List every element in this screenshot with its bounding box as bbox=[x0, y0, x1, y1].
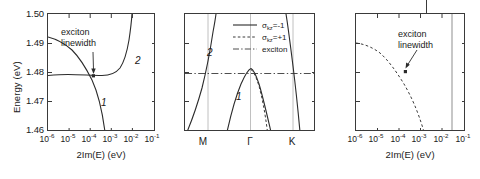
legend-entry-sigma-plus1: σkz=+1 bbox=[232, 31, 287, 43]
right-panel-curve-sigma-plus1 bbox=[356, 43, 424, 131]
legend-key-solid bbox=[232, 20, 258, 30]
left-panel-y-tickmarks bbox=[48, 44, 155, 102]
xtick-mantissa: 10 bbox=[391, 134, 400, 144]
xtick-mantissa: 10 bbox=[434, 134, 443, 144]
left-panel-xtick-1e-1: 10-1 bbox=[138, 134, 166, 144]
left-panel-curve-label-2: 2 bbox=[135, 55, 141, 66]
xtick-exponent: -3 bbox=[421, 132, 427, 139]
xtick-mantissa: 10 bbox=[82, 134, 91, 144]
middle-panel-xtick-Gamma: Γ bbox=[240, 136, 260, 147]
legend-entry-sigma-minus1: σkz=-1 bbox=[232, 19, 287, 31]
left-panel-ytick-1_48: 1.48 bbox=[16, 66, 44, 77]
right-panel-x-axis-title: 2Im(E) (eV) bbox=[355, 149, 465, 160]
legend-key-dashed bbox=[232, 32, 258, 42]
legend-label-sigma-minus1: σkz=-1 bbox=[262, 21, 285, 30]
left-panel-linewidth-marker bbox=[92, 74, 95, 77]
middle-panel-legend: σkz=-1 σkz=+1 exciton bbox=[232, 19, 287, 55]
legend-sigma-value: =-1 bbox=[273, 21, 285, 30]
middle-panel-curve-sigma-plus1 bbox=[251, 70, 268, 132]
xtick-exponent: -1 bbox=[154, 132, 160, 139]
left-panel-curve-label-1: 1 bbox=[101, 97, 107, 108]
legend-label-sigma-plus1: σkz=+1 bbox=[262, 33, 287, 42]
left-panel-annotation-arrow-head bbox=[91, 69, 95, 75]
left-panel-annotation-line2: linewidth bbox=[61, 38, 96, 49]
middle-panel-curve-2 bbox=[187, 14, 216, 131]
right-panel-xtick-1e-1: 10-1 bbox=[449, 134, 477, 144]
xtick-mantissa: 10 bbox=[369, 134, 378, 144]
middle-panel-xtick-K: K bbox=[282, 136, 302, 147]
legend-sigma-subscript: kz bbox=[267, 25, 273, 31]
figure-container: Energy (eV) 1.50 1.49 1.48 1.47 1.46 bbox=[0, 0, 480, 179]
xtick-mantissa: 10 bbox=[124, 134, 133, 144]
right-panel-annotation-line1: exciton bbox=[398, 29, 427, 40]
middle-panel-xtick-M: M bbox=[193, 136, 213, 147]
right-panel-y-tickmarks bbox=[356, 44, 465, 102]
middle-panel-curve-1 bbox=[227, 69, 271, 132]
xtick-mantissa: 10 bbox=[348, 134, 357, 144]
legend-sigma-value: =+1 bbox=[273, 33, 287, 42]
middle-panel-curve-label-2: 2 bbox=[207, 47, 213, 58]
right-panel-top-tickmark bbox=[426, 0, 427, 13]
right-panel-annotation-arrow-shaft bbox=[408, 50, 418, 65]
left-panel-ytick-1_47: 1.47 bbox=[16, 95, 44, 106]
left-panel-annotation-line1: exciton bbox=[61, 27, 90, 38]
left-panel-curve-1 bbox=[48, 37, 105, 131]
legend-key-dashdot bbox=[232, 44, 258, 54]
legend-label-exciton: exciton bbox=[262, 45, 287, 54]
right-panel-linewidth-marker bbox=[404, 70, 407, 73]
left-panel-x-axis-title: 2Im(E) (eV) bbox=[47, 149, 155, 160]
middle-panel-curve-label-1: 1 bbox=[236, 91, 242, 102]
xtick-mantissa: 10 bbox=[412, 134, 421, 144]
xtick-mantissa: 10 bbox=[61, 134, 70, 144]
xtick-exponent: -5 bbox=[378, 132, 384, 139]
left-panel-annotation-arrow-shaft bbox=[93, 52, 94, 70]
xtick-exponent: -1 bbox=[465, 132, 471, 139]
xtick-mantissa: 10 bbox=[103, 134, 112, 144]
xtick-mantissa: 10 bbox=[145, 134, 154, 144]
legend-sigma-subscript: kz bbox=[267, 37, 273, 43]
left-panel-ytick-1_49: 1.49 bbox=[16, 37, 44, 48]
right-panel-annotation-arrow-head bbox=[406, 62, 410, 68]
xtick-mantissa: 10 bbox=[40, 134, 49, 144]
left-panel-ytick-1_50: 1.50 bbox=[16, 8, 44, 19]
legend-entry-exciton: exciton bbox=[232, 43, 287, 55]
xtick-exponent: -2 bbox=[443, 132, 449, 139]
right-panel-annotation-line2: linewidth bbox=[398, 40, 433, 51]
xtick-mantissa: 10 bbox=[456, 134, 465, 144]
